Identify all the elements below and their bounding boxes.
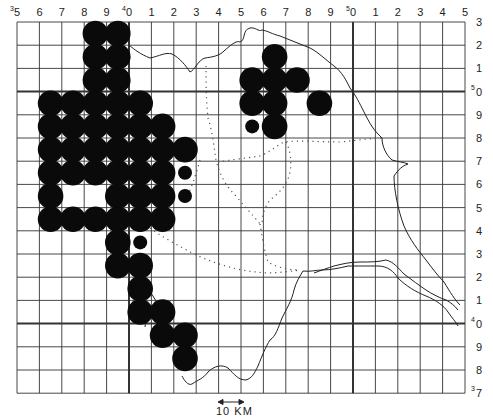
grid-label-top: 9 bbox=[328, 6, 334, 18]
grid-label-top: 0 bbox=[126, 6, 132, 18]
record-dot-large bbox=[172, 322, 198, 348]
record-dot-large bbox=[262, 114, 288, 140]
grid-label-right: 1 bbox=[476, 62, 482, 74]
grid-label-top: 1 bbox=[372, 6, 378, 18]
record-dot-large bbox=[172, 137, 198, 163]
grid-label-top: 5 bbox=[238, 6, 244, 18]
record-dot-large bbox=[105, 44, 131, 70]
record-dot-large bbox=[83, 67, 109, 93]
record-dot-large bbox=[38, 90, 64, 116]
grid-label-top: 5 bbox=[462, 6, 468, 18]
record-dot-large bbox=[127, 114, 153, 140]
record-dot-small bbox=[178, 189, 192, 203]
grid-label-top: 7 bbox=[283, 6, 289, 18]
record-dot-large bbox=[83, 21, 109, 47]
distribution-map: 3567894012345678950123453215098765432140… bbox=[0, 0, 493, 420]
record-dot-large bbox=[239, 67, 265, 93]
record-dot-large bbox=[105, 183, 131, 209]
grid-label-right: 1 bbox=[476, 294, 482, 306]
record-dot-large bbox=[150, 114, 176, 140]
record-dot-large bbox=[105, 21, 131, 47]
record-dot-large bbox=[172, 346, 198, 372]
record-dot-large bbox=[105, 253, 131, 279]
record-dot-large bbox=[60, 137, 86, 163]
record-dot-large bbox=[262, 44, 288, 70]
record-dot-large bbox=[307, 90, 333, 116]
grid-label-top: 5 bbox=[14, 6, 20, 18]
record-dot-large bbox=[105, 160, 131, 186]
grid-label-top: 3 bbox=[417, 6, 423, 18]
grid-label-top: 3 bbox=[193, 6, 199, 18]
grid-labels: 3567894012345678950123453215098765432140… bbox=[10, 5, 482, 399]
record-dot-large bbox=[38, 137, 64, 163]
record-dot-large bbox=[105, 67, 131, 93]
scale-label: 10 KM bbox=[216, 405, 253, 417]
record-dot-large bbox=[127, 183, 153, 209]
grid-label-right: 9 bbox=[476, 341, 482, 353]
record-dot-large bbox=[127, 206, 153, 232]
record-dot-large bbox=[83, 206, 109, 232]
record-dot-large bbox=[284, 67, 310, 93]
grid-label-right: 8 bbox=[476, 132, 482, 144]
grid-label-top: 6 bbox=[260, 6, 266, 18]
grid-label-top: 4 bbox=[440, 6, 446, 18]
scale-bar: 10 KM bbox=[216, 400, 253, 418]
grid-label-right: 2 bbox=[476, 271, 482, 283]
record-dot-large bbox=[83, 160, 109, 186]
record-dots bbox=[38, 21, 332, 371]
grid-label-top: 7 bbox=[59, 6, 65, 18]
grid-label-right: 7 bbox=[476, 155, 482, 167]
grid-label-top: 0 bbox=[350, 6, 356, 18]
record-dot-large bbox=[83, 90, 109, 116]
record-dot-large bbox=[127, 90, 153, 116]
grid-label-superscript: 4 bbox=[471, 316, 475, 323]
grid-label-right: 2 bbox=[476, 39, 482, 51]
record-dot-large bbox=[105, 114, 131, 140]
grid-label-top: 2 bbox=[395, 6, 401, 18]
record-dot-small bbox=[245, 119, 259, 133]
record-dot-large bbox=[150, 160, 176, 186]
grid-label-right: 5 bbox=[476, 202, 482, 214]
record-dot-large bbox=[127, 299, 153, 325]
record-dot-large bbox=[60, 160, 86, 186]
grid-label-superscript: 5 bbox=[471, 84, 475, 91]
record-dot-large bbox=[150, 299, 176, 325]
record-dot-large bbox=[105, 90, 131, 116]
grid-label-right: 0 bbox=[476, 86, 482, 98]
grid-label-superscript: 3 bbox=[471, 385, 475, 392]
record-dot-large bbox=[60, 90, 86, 116]
grid-label-right: 6 bbox=[476, 178, 482, 190]
record-dot-large bbox=[127, 160, 153, 186]
record-dot-large bbox=[262, 90, 288, 116]
record-dot-large bbox=[38, 114, 64, 140]
record-dot-large bbox=[38, 183, 64, 209]
grid-label-right: 3 bbox=[476, 16, 482, 28]
grid-label-top: 2 bbox=[171, 6, 177, 18]
grid-label-top: 9 bbox=[104, 6, 110, 18]
record-dot-large bbox=[105, 206, 131, 232]
record-dot-large bbox=[150, 322, 176, 348]
record-dot-large bbox=[150, 206, 176, 232]
grid-label-right: 7 bbox=[476, 387, 482, 399]
record-dot-large bbox=[105, 230, 131, 256]
record-dot-large bbox=[239, 90, 265, 116]
record-dot-small bbox=[178, 166, 192, 180]
grid-label-top: 1 bbox=[148, 6, 154, 18]
record-dot-large bbox=[105, 137, 131, 163]
double-arrow-icon bbox=[218, 400, 244, 405]
record-dot-large bbox=[83, 137, 109, 163]
record-dot-large bbox=[60, 206, 86, 232]
grid-label-right: 3 bbox=[476, 248, 482, 260]
record-dot-large bbox=[38, 206, 64, 232]
record-dot-large bbox=[83, 44, 109, 70]
record-dot-large bbox=[60, 114, 86, 140]
record-dot-large bbox=[150, 183, 176, 209]
record-dot-large bbox=[38, 160, 64, 186]
record-dot-large bbox=[127, 137, 153, 163]
grid-label-right: 8 bbox=[476, 364, 482, 376]
record-dot-large bbox=[150, 137, 176, 163]
grid-label-right: 0 bbox=[476, 318, 482, 330]
record-dot-small bbox=[133, 235, 147, 249]
record-dot-large bbox=[262, 67, 288, 93]
grid-label-top: 8 bbox=[305, 6, 311, 18]
